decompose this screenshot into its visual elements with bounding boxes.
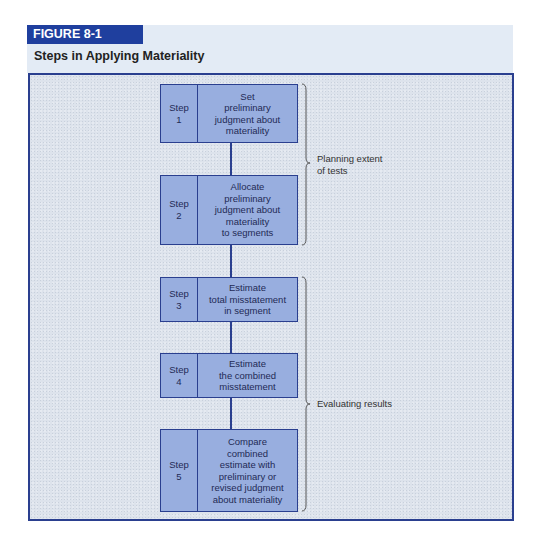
brace-icons <box>0 0 539 533</box>
evaluating-brace-icon <box>302 277 310 511</box>
planning-brace-icon <box>302 84 310 245</box>
planning-extent-label: Planning extent of tests <box>317 153 383 176</box>
evaluating-results-label: Evaluating results <box>317 398 392 410</box>
